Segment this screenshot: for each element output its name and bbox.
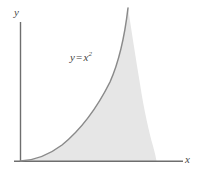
y-axis-label: y	[14, 7, 19, 18]
parabola-figure: y x y=x2	[0, 0, 198, 179]
shaded-region	[21, 8, 157, 161]
equation-operator: =	[75, 51, 83, 63]
equation-exponent: 2	[89, 50, 93, 58]
plot-canvas	[0, 0, 198, 179]
curve-equation-label: y=x2	[70, 51, 92, 63]
x-axis-label: x	[185, 154, 190, 165]
